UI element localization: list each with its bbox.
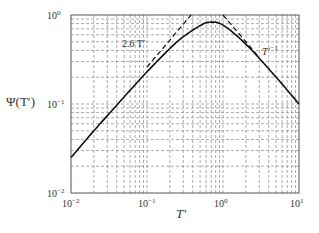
psi-curve [71,22,299,157]
annotation-2.6T: 2.6 T′ [122,38,145,49]
annotation-T-inverse: T′−1 [262,44,278,57]
asymptote-2.6T [147,15,191,67]
x-axis-label: T′ [176,206,186,221]
asymptote-T-inverse [223,15,259,58]
x-tick-label: 101 [290,197,304,209]
y-tick-label: 100 [47,9,61,21]
x-tick-label: 10−2 [62,197,80,209]
y-axis-label: Ψ(T′) [6,94,35,109]
plot-frame [71,15,299,193]
data-series [71,15,299,158]
chart-canvas: 10−210−110010110−210−1100 2.6 T′ T′−1 Ψ(… [0,0,319,233]
y-tick-label: 10−1 [47,98,65,110]
x-tick-label: 100 [214,197,228,209]
axis-ticks: 10−210−110010110−210−1100 [47,9,304,209]
grid-lines [71,15,299,193]
x-tick-label: 10−1 [138,197,156,209]
